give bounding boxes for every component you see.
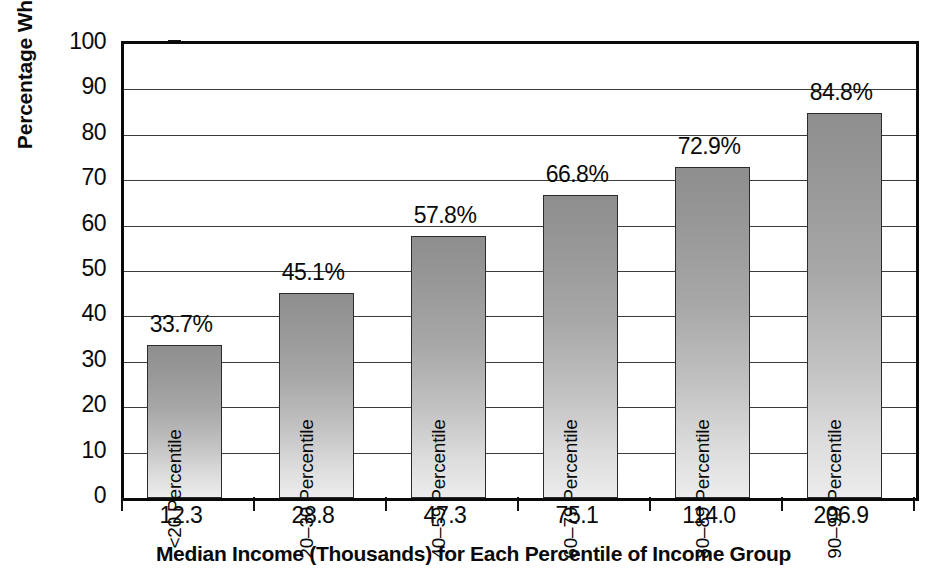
gridline	[124, 135, 916, 136]
bar-value-label: 84.8%	[784, 81, 899, 104]
bar[interactable]: <20 Percentile	[147, 345, 222, 498]
y-tick-label: 30	[60, 348, 106, 371]
y-tick-label: 100	[60, 30, 106, 53]
gridline	[124, 271, 916, 272]
bar-chart-figure: Percentage Who Saved 0102030405060708090…	[0, 0, 947, 583]
y-tick-label: 70	[60, 166, 106, 189]
bar-inner-label: 90–99 Percentile	[825, 419, 844, 558]
gridline	[124, 226, 916, 227]
y-tick-label: 20	[60, 393, 106, 416]
bar-value-label: 57.8%	[388, 204, 503, 227]
y-tick-label: 0	[60, 484, 106, 507]
y-tick-label: 90	[60, 75, 106, 98]
plot-area: <20 Percentile20–30 Percentile40–59 Perc…	[121, 41, 919, 501]
bar-inner-label: 20–30 Percentile	[297, 419, 316, 558]
bar-value-label: 33.7%	[124, 313, 239, 336]
bar-value-label: 45.1%	[256, 261, 371, 284]
x-axis-title: Median Income (Thousands) for Each Perce…	[0, 543, 947, 564]
bar-inner-label: 80–89 Percentile	[693, 419, 712, 558]
bar-inner-label: <20 Percentile	[165, 429, 184, 548]
gridline	[124, 453, 916, 454]
y-tick-label: 60	[60, 212, 106, 235]
y-tick-label: 50	[60, 257, 106, 280]
bar-inner-label: 40–59 Percentile	[429, 419, 448, 558]
y-tick-label: 80	[60, 121, 106, 144]
bar[interactable]: 90–99 Percentile	[807, 113, 882, 498]
x-tick-label: 28.8	[251, 504, 376, 527]
gridline	[124, 316, 916, 317]
bar-inner-label: 60–79 Percentile	[561, 419, 580, 558]
bar-value-label: 72.9%	[652, 135, 767, 158]
bar[interactable]: 80–89 Percentile	[675, 167, 750, 498]
y-tick-label: 10	[60, 439, 106, 462]
x-tick-label: 47.3	[383, 504, 508, 527]
bar[interactable]: 40–59 Percentile	[411, 236, 486, 498]
x-tick-label: 114.0	[647, 504, 772, 527]
x-tick-label: 75.1	[515, 504, 640, 527]
bar-value-label: 66.8%	[520, 163, 635, 186]
x-tick-label: 12.3	[119, 504, 244, 527]
gridline	[124, 362, 916, 363]
y-tick-label: 40	[60, 302, 106, 325]
bar[interactable]: 20–30 Percentile	[279, 293, 354, 498]
bar[interactable]: 60–79 Percentile	[543, 195, 618, 498]
gridline	[124, 407, 916, 408]
y-axis-title: Percentage Who Saved	[10, 0, 40, 185]
y-axis-ticks: 0102030405060708090100	[60, 0, 106, 583]
x-tick-label: 206.9	[779, 504, 904, 527]
x-tick-mark	[913, 497, 915, 511]
